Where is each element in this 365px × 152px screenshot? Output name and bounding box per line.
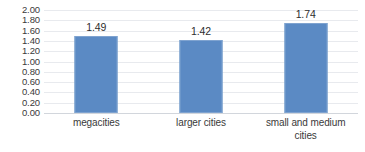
y-axis-tick-label: 0.00 [0,108,40,118]
axis-baseline [44,113,358,114]
y-axis-tick-label: 1.80 [0,15,40,25]
bar[interactable] [75,36,118,113]
y-axis-tick-label: 2.00 [0,5,40,15]
x-axis-category-label-line: megacities [73,117,120,128]
bar-chart: 2.00 1.80 1.60 1.40 1.20 1.00 0.80 0.60 … [0,0,365,152]
bar-value-label: 1.42 [191,26,211,37]
x-axis: megacities larger cities small and mediu… [44,116,358,150]
y-axis-tick-label: 1.40 [0,36,40,46]
y-axis-tick-label: 0.40 [0,87,40,97]
bar-value-label: 1.74 [296,9,316,20]
bar-group: 1.74 [253,10,358,113]
x-axis-category-label-line: cities [253,129,358,142]
y-axis-tick-label: 1.20 [0,46,40,56]
x-axis-category-label: small and medium cities [253,116,358,142]
y-axis: 2.00 1.80 1.60 1.40 1.20 1.00 0.80 0.60 … [0,10,40,113]
bar-group: 1.42 [149,10,254,113]
x-axis-category-label-line: small and medium [266,117,346,128]
bar[interactable] [284,23,327,113]
plot-area: 1.49 1.42 1.74 [44,10,358,113]
bar-value-label: 1.49 [86,22,106,33]
x-axis-category-label: megacities [44,116,149,129]
x-axis-category-label-line: larger cities [176,117,226,128]
y-axis-tick-label: 0.80 [0,67,40,77]
y-axis-tick-label: 0.60 [0,77,40,87]
y-axis-tick-label: 0.20 [0,98,40,108]
x-axis-category-label: larger cities [149,116,254,129]
bar-group: 1.49 [44,10,149,113]
bar[interactable] [179,40,222,113]
y-axis-tick-label: 1.60 [0,26,40,36]
y-axis-tick-label: 1.00 [0,57,40,67]
